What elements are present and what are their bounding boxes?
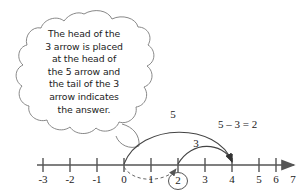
- five-arrow-label: 5: [163, 108, 183, 120]
- number-line-figure: The head of the 3 arrow is placed at the…: [0, 0, 304, 191]
- tick-label--2: -2: [60, 173, 80, 185]
- cloud-line-6: arrow indicates: [26, 91, 142, 104]
- cloud-line-5: the tail of the 3: [26, 78, 142, 91]
- equation-label: 5 – 3 = 2: [218, 118, 257, 130]
- cloud-line-4: the 5 arrow and: [26, 66, 142, 79]
- tick-label-2: 2: [168, 174, 188, 186]
- tick-label-4: 4: [222, 173, 242, 185]
- tick-label-3: 3: [195, 173, 215, 185]
- tick-label--1: -1: [87, 173, 107, 185]
- number-line-axis: [37, 158, 294, 172]
- three-arrow-label: 3: [186, 137, 206, 149]
- cloud-text: The head of the 3 arrow is placed at the…: [26, 28, 142, 116]
- tick-label-7: 7: [283, 173, 303, 185]
- cloud-line-7: the answer.: [26, 104, 142, 117]
- cloud-line-2: 3 arrow is placed: [26, 41, 142, 54]
- tick-label-1: 1: [141, 173, 161, 185]
- cloud-line-1: The head of the: [26, 28, 142, 41]
- tick-label--3: -3: [33, 173, 53, 185]
- tick-label-0: 0: [114, 173, 134, 185]
- cloud-line-3: at the head of: [26, 53, 142, 66]
